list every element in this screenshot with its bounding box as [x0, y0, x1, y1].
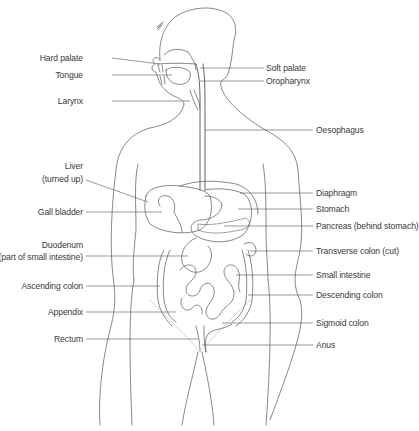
right-arm	[263, 164, 268, 280]
outer-leg-left	[130, 280, 134, 425]
label-hard-palate: Hard palate	[40, 53, 83, 63]
inner-leg-left	[182, 352, 198, 425]
label-small-intestine: Small intestine	[316, 270, 370, 280]
hard-palate-shape	[158, 63, 196, 64]
gall-bladder-shape	[158, 196, 182, 232]
label-rectum: Rectum	[54, 334, 83, 344]
face-outline	[152, 57, 184, 104]
inner-leg-right	[202, 352, 214, 425]
label-oropharynx: Oropharynx	[266, 76, 310, 86]
leader-liver	[86, 180, 148, 202]
teeth-upper	[158, 65, 163, 72]
label-stomach: Stomach	[316, 204, 349, 214]
duodenum-shape	[182, 238, 212, 272]
pelvis-outline	[150, 300, 250, 352]
label-gall-bladder: Gall bladder	[38, 207, 83, 217]
leader-lines	[86, 58, 313, 345]
label-sigmoid-colon: Sigmoid colon	[316, 318, 369, 328]
small-intestine-shape	[180, 265, 240, 319]
ascending-colon-shape	[157, 250, 176, 326]
outer-leg-right	[266, 280, 270, 425]
tongue-shape	[166, 67, 190, 84]
nasal-cavity	[164, 49, 196, 70]
transverse-colon-shape	[244, 242, 256, 256]
neck-front	[99, 104, 184, 425]
stomach-shape	[191, 189, 251, 242]
larynx-shape	[190, 90, 200, 110]
label-soft-palate: Soft palate	[266, 63, 306, 73]
label-tongue: Tongue	[55, 70, 83, 80]
label-oesophagus: Oesophagus	[316, 125, 364, 135]
label-transverse-colon: Transverse colon (cut)	[316, 246, 399, 256]
ear	[157, 22, 163, 30]
label-liver-note: (turned up)	[42, 174, 83, 184]
label-pancreas: Pancreas (behind stomach)	[316, 221, 419, 231]
oesophagus-tube	[196, 64, 205, 190]
label-ascending-colon: Ascending colon	[21, 281, 83, 291]
liver-shape	[145, 185, 212, 232]
sigmoid-colon-shape	[206, 324, 233, 352]
left-arm	[133, 164, 138, 280]
label-duodenum: Duodenum	[42, 240, 83, 250]
label-diaphragm: Diaphragm	[316, 188, 357, 198]
teeth-lower	[160, 76, 165, 84]
label-larynx: Larynx	[58, 96, 83, 106]
label-anus: Anus	[316, 340, 335, 350]
label-appendix: Appendix	[48, 307, 83, 317]
label-liver: Liver	[65, 161, 83, 171]
label-descending-colon: Descending colon	[316, 290, 383, 300]
label-duodenum-note: (part of small intestine)	[0, 252, 83, 262]
descending-colon-shape	[232, 250, 253, 326]
